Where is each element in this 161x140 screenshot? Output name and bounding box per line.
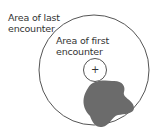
- first-encounter-label-line1: Area of first: [56, 35, 109, 46]
- first-encounter-label-line2: encounter: [56, 46, 109, 57]
- last-encounter-label-line2: encounter: [8, 23, 60, 34]
- search-area-blob: [84, 81, 134, 128]
- last-encounter-label: Area of last encounter: [8, 12, 60, 34]
- center-plus-icon: +: [91, 64, 99, 75]
- first-encounter-label: Area of first encounter: [56, 35, 109, 57]
- last-encounter-label-line1: Area of last: [8, 12, 60, 23]
